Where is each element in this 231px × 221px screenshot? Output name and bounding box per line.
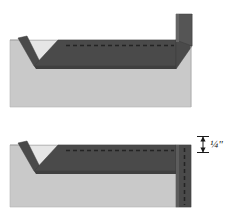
cross-section-diagram: ¼"	[0, 0, 231, 221]
upper-board-bottom-edge	[34, 66, 176, 69]
lower-panel	[10, 141, 191, 207]
lower-board-bottom-edge	[34, 171, 176, 174]
upper-riser-left-shade	[176, 14, 179, 42]
figure-root: ¼"	[0, 0, 231, 221]
upper-board-horizontal-run	[34, 40, 176, 66]
dimension-label: ¼"	[210, 138, 223, 150]
lower-right-strip-shade	[176, 145, 179, 207]
lower-board-horizontal-run	[34, 145, 176, 171]
